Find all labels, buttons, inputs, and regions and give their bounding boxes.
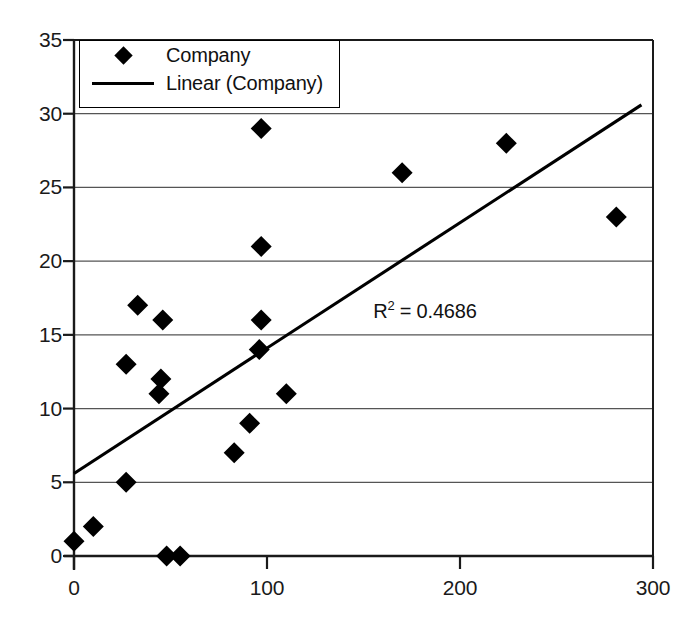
r-squared-value: = 0.4686: [394, 300, 476, 322]
data-point-marker: [150, 369, 171, 390]
data-point-marker: [83, 516, 104, 537]
data-point-marker: [64, 531, 85, 552]
legend-entry-linear-company: Linear (Company): [80, 69, 339, 97]
y-tick-label: 35: [8, 28, 62, 52]
axes-group: [64, 40, 653, 570]
scatter-chart: 05101520253035 0100200300 Company Linear…: [0, 0, 694, 626]
data-point-marker: [127, 295, 148, 316]
data-point-marker: [239, 413, 260, 434]
data-point-marker: [606, 206, 627, 227]
legend-label-linear-company: Linear (Company): [166, 72, 323, 95]
legend-entry-company: Company: [80, 41, 339, 69]
r-squared-annotation: R2 = 0.4686: [373, 300, 476, 323]
tick-marks-group: [63, 40, 653, 569]
data-point-marker: [251, 118, 272, 139]
r-squared-symbol: R: [373, 300, 387, 322]
y-tick-label: 15: [8, 323, 62, 347]
x-tick-label: 300: [636, 576, 670, 600]
data-point-marker: [152, 310, 173, 331]
x-tick-label: 200: [443, 576, 477, 600]
trend-line-icon: [80, 82, 166, 85]
trendline-path: [74, 105, 641, 474]
data-point-marker: [116, 472, 137, 493]
y-tick-label: 0: [8, 544, 62, 568]
y-tick-label: 20: [8, 249, 62, 273]
y-tick-label: 10: [8, 397, 62, 421]
data-point-marker: [496, 133, 517, 154]
data-point-marker: [170, 546, 191, 567]
y-tick-label: 25: [8, 175, 62, 199]
legend-label-company: Company: [166, 44, 250, 67]
data-point-marker: [116, 354, 137, 375]
x-tick-label: 0: [68, 576, 79, 600]
data-point-marker: [251, 310, 272, 331]
data-point-marker: [392, 162, 413, 183]
chart-legend: Company Linear (Company): [79, 40, 340, 108]
y-tick-label: 30: [8, 102, 62, 126]
data-point-marker: [251, 236, 272, 257]
data-point-marker: [276, 383, 297, 404]
diamond-marker-icon: [80, 49, 166, 62]
data-point-marker: [224, 442, 245, 463]
trendline: [74, 105, 641, 474]
y-tick-label: 5: [8, 470, 62, 494]
x-tick-label: 100: [250, 576, 284, 600]
data-points-group: [64, 118, 627, 567]
